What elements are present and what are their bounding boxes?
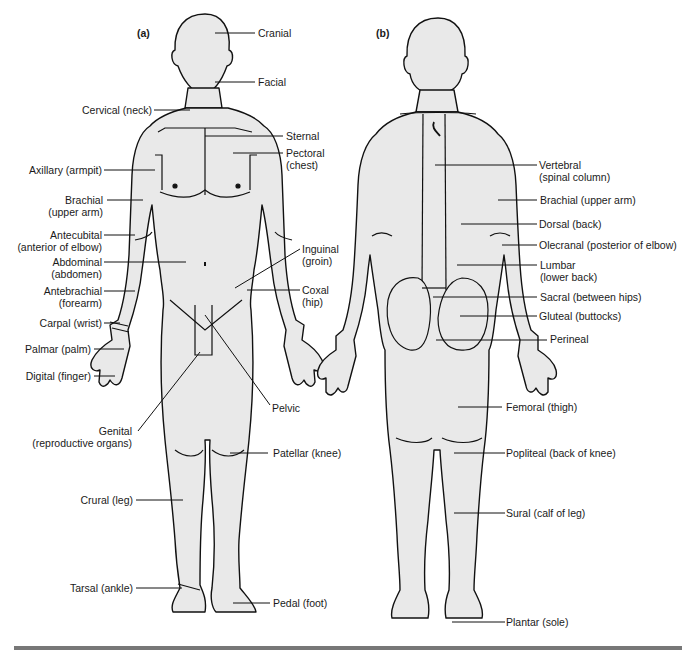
label-gluteal: Gluteal (buttocks) bbox=[539, 310, 621, 322]
label-vertebral: Vertebral(spinal column) bbox=[539, 159, 610, 183]
label-coxal: Coxal(hip) bbox=[302, 284, 329, 308]
label-digital: Digital (finger) bbox=[26, 370, 91, 382]
panel-label-b: (b) bbox=[376, 27, 389, 39]
posterior-body bbox=[318, 18, 557, 618]
label-dorsal: Dorsal (back) bbox=[539, 218, 601, 230]
label-tarsal: Tarsal (ankle) bbox=[70, 582, 133, 594]
label-carpal: Carpal (wrist) bbox=[40, 317, 102, 329]
label-axillary: Axillary (armpit) bbox=[29, 164, 102, 176]
label-genital: Genital(reproductive organs) bbox=[32, 425, 132, 449]
label-crural: Crural (leg) bbox=[80, 494, 133, 506]
label-antebrachial: Antebrachial(forearm) bbox=[44, 285, 102, 309]
label-popliteal: Popliteal (back of knee) bbox=[506, 447, 616, 459]
label-sural: Sural (calf of leg) bbox=[506, 507, 585, 519]
label-plantar: Plantar (sole) bbox=[506, 616, 568, 628]
label-pectoral: Pectoral(chest) bbox=[286, 147, 325, 171]
label-antecubital: Antecubital(anterior of elbow) bbox=[17, 229, 102, 253]
bottom-rule bbox=[14, 646, 682, 650]
label-brachial-anterior: Brachial(upper arm) bbox=[48, 194, 103, 218]
label-lumbar: Lumbar(lower back) bbox=[540, 259, 597, 283]
panel-label-a: (a) bbox=[137, 27, 150, 39]
label-pelvic: Pelvic bbox=[272, 402, 300, 414]
label-olecranal: Olecranal (posterior of elbow) bbox=[539, 239, 677, 251]
label-cranial: Cranial bbox=[258, 27, 291, 39]
body-regions-figure bbox=[0, 0, 687, 656]
label-sacral: Sacral (between hips) bbox=[540, 291, 642, 303]
label-patellar: Patellar (knee) bbox=[273, 447, 341, 459]
label-brachial-posterior: Brachial (upper arm) bbox=[540, 194, 636, 206]
label-cervical: Cervical (neck) bbox=[82, 104, 152, 116]
label-pedal: Pedal (foot) bbox=[273, 597, 327, 609]
label-abdominal: Abdominal(abdomen) bbox=[51, 256, 102, 280]
label-perineal: Perineal bbox=[550, 333, 589, 345]
label-sternal: Sternal bbox=[286, 130, 319, 142]
label-inguinal: Inguinal(groin) bbox=[302, 243, 339, 267]
label-femoral: Femoral (thigh) bbox=[506, 401, 577, 413]
label-facial: Facial bbox=[258, 76, 286, 88]
label-palmar: Palmar (palm) bbox=[25, 343, 91, 355]
